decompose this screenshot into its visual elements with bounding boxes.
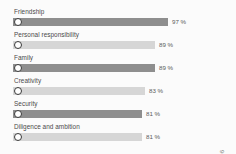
- bar-fill: [13, 110, 142, 118]
- bar-fill: [13, 133, 142, 141]
- bar-value-label: 81 %: [146, 109, 160, 118]
- bar-fill: [13, 64, 155, 72]
- bar-start-marker-icon: [14, 133, 22, 141]
- bar-fill: [13, 87, 145, 95]
- chart-row: Diligence and ambition 81 %: [13, 123, 195, 146]
- chart-source-caption: 15. Shell Jugendstudie, 2006: [219, 150, 226, 154]
- bar-value-label: 97 %: [172, 17, 186, 26]
- bar-track: [13, 110, 195, 118]
- chart-row: Personal responsibility 89 %: [13, 31, 195, 54]
- bar-start-marker-icon: [14, 87, 22, 95]
- bar-start-marker-icon: [14, 64, 22, 72]
- bar-start-marker-icon: [14, 110, 22, 118]
- bar-value-label: 83 %: [149, 86, 163, 95]
- bar-category-label: Family: [14, 54, 33, 62]
- bar-value-label: 89 %: [159, 40, 173, 49]
- bar-category-label: Personal responsibility: [14, 31, 79, 39]
- bar-value-label: 81 %: [146, 132, 160, 141]
- bar-value-label: 89 %: [159, 63, 173, 72]
- bar-category-label: Creativity: [14, 77, 41, 85]
- bar-fill: [13, 41, 155, 49]
- bar-track: [13, 87, 195, 95]
- bar-category-label: Security: [14, 100, 38, 108]
- bar-category-label: Friendship: [14, 8, 44, 16]
- bar-track: [13, 18, 195, 26]
- chart-row: Security 81 %: [13, 100, 195, 123]
- bar-chart-plot: Friendship 97 % Personal responsibility …: [13, 8, 195, 146]
- bar-start-marker-icon: [14, 41, 22, 49]
- bar-start-marker-icon: [14, 18, 22, 26]
- chart-canvas: Friendship 97 % Personal responsibility …: [0, 0, 236, 154]
- bar-fill: [13, 18, 168, 26]
- bar-category-label: Diligence and ambition: [14, 123, 80, 131]
- chart-row: Family 89 %: [13, 54, 195, 77]
- bar-track: [13, 133, 195, 141]
- chart-row: Friendship 97 %: [13, 8, 195, 31]
- chart-row: Creativity 83 %: [13, 77, 195, 100]
